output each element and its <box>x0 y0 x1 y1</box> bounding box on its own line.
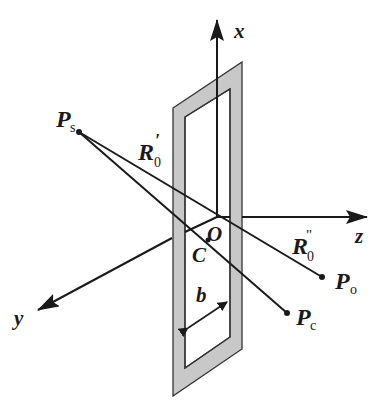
origin-label: O <box>207 222 222 246</box>
label-pc: P c <box>295 304 316 333</box>
dimension-b-arrow <box>188 302 227 328</box>
svg-text:": " <box>306 227 312 243</box>
svg-text:P: P <box>295 304 311 330</box>
y-axis <box>38 238 172 310</box>
x-axis-label: x <box>233 19 245 43</box>
label-ps: P s <box>55 106 75 135</box>
svg-text:0: 0 <box>307 249 314 264</box>
z-axis-label: z <box>354 224 364 248</box>
width-b-label: b <box>196 283 207 307</box>
y-axis-label: y <box>11 306 24 330</box>
svg-text:P: P <box>334 268 350 294</box>
svg-text:o: o <box>350 282 357 297</box>
point-po <box>319 274 325 280</box>
svg-text:c: c <box>310 318 316 333</box>
label-r0-double-prime: R 0 " <box>291 227 314 264</box>
point-ps <box>76 129 82 135</box>
label-po: P o <box>334 268 357 297</box>
label-r0-prime: R 0 ′ <box>137 131 161 170</box>
svg-text:R: R <box>137 139 154 165</box>
svg-text:P: P <box>55 106 71 132</box>
point-pc <box>284 310 290 316</box>
svg-text:0: 0 <box>154 155 161 170</box>
diagram-canvas: x z y O C b P s P o P c R 0 ′ R 0 " <box>0 0 385 411</box>
svg-text:s: s <box>70 120 75 135</box>
center-label: C <box>192 243 207 267</box>
svg-text:′: ′ <box>155 131 160 151</box>
